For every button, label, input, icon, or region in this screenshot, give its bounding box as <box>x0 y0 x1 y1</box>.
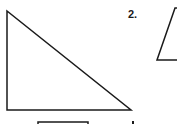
diagram-canvas <box>0 0 177 124</box>
figure-2-label: 2. <box>128 9 137 20</box>
dot-mark <box>132 121 134 124</box>
triangle-figure-2 <box>157 8 177 60</box>
right-triangle-figure-1 <box>7 11 131 110</box>
bottom-rectangle-partial <box>38 122 88 124</box>
